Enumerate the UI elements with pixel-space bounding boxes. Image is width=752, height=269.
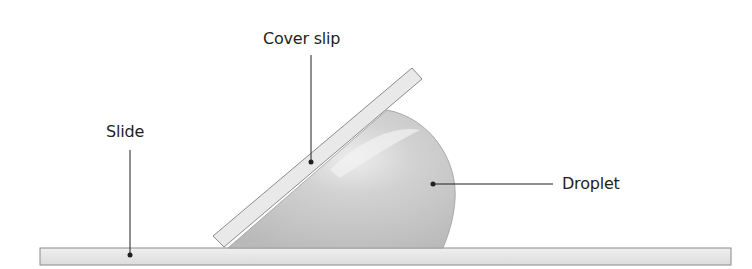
- cover-slip-leader-dot: [309, 160, 314, 165]
- slide-leader-dot: [128, 253, 133, 258]
- cover-slip-label: Cover slip: [263, 29, 340, 48]
- slide: [40, 248, 731, 265]
- droplet-leader-dot: [431, 182, 436, 187]
- slide-label: Slide: [106, 122, 144, 141]
- droplet-label: Droplet: [562, 174, 620, 193]
